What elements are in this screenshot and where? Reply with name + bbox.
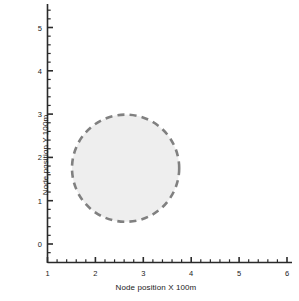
x-tick-label: 2 [93,269,97,278]
bottom-partial-caption [0,297,299,301]
x-tick-label: 4 [189,269,193,278]
y-tick-label: 5 [30,23,42,32]
x-axis-title: Node position X 100m [116,283,197,292]
x-tick-label: 3 [141,269,145,278]
x-tick-label: 5 [237,269,241,278]
plot-area: 012345 123456 Node position X 100m Node … [0,0,299,301]
y-axis-title: Node position Y 100m [41,115,50,195]
coverage-region-group [72,115,179,222]
y-tick-label: 0 [30,240,42,249]
chart-screenshot: 012345 123456 Node position X 100m Node … [0,0,299,301]
x-tick-label: 1 [45,269,49,278]
x-axis-ticks [48,257,288,263]
x-tick-label: 6 [285,269,289,278]
y-tick-label: 1 [30,196,42,205]
y-tick-label: 4 [30,66,42,75]
